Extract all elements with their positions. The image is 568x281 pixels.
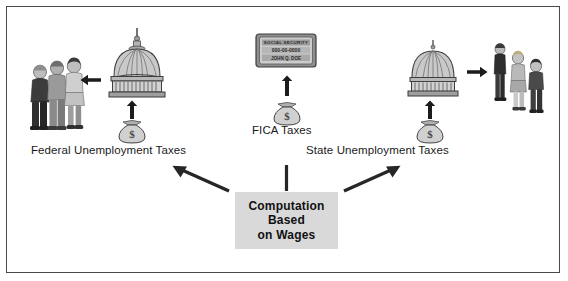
left-branch-label: Federal Unemployment Taxes bbox=[31, 144, 186, 156]
computation-line-3: on Wages bbox=[258, 228, 316, 243]
svg-text:$: $ bbox=[427, 128, 433, 140]
state-capitol-dome-icon bbox=[402, 38, 464, 98]
arrow-right-icon bbox=[466, 66, 488, 78]
svg-text:SOCIAL SECURITY: SOCIAL SECURITY bbox=[264, 40, 308, 45]
computation-line-1: Computation bbox=[248, 199, 324, 214]
svg-text:JOHN Q. DOE: JOHN Q. DOE bbox=[271, 56, 301, 61]
svg-text:$: $ bbox=[284, 110, 290, 122]
right-recipients-people-icon bbox=[488, 40, 550, 116]
capitol-dome-icon bbox=[101, 28, 173, 98]
right-money-bag-icon: $ bbox=[409, 117, 451, 143]
computation-line-2: Based bbox=[268, 213, 305, 228]
social-security-card-icon: SOCIAL SECURITY 000-00-0000 JOHN Q. DOE bbox=[254, 31, 318, 69]
center-branch-arrow-up-icon bbox=[281, 75, 293, 97]
diagram-canvas: $ Federal Unemployment Taxes SOCIAL SECU… bbox=[0, 0, 568, 281]
svg-text:$: $ bbox=[129, 128, 135, 140]
left-money-bag-icon: $ bbox=[111, 117, 153, 143]
arrow-left-icon bbox=[80, 74, 102, 86]
svg-text:000-00-0000: 000-00-0000 bbox=[272, 47, 301, 53]
center-money-bag-icon: $ bbox=[266, 99, 308, 125]
left-recipients-people-icon bbox=[26, 58, 88, 132]
center-branch-label: FICA Taxes bbox=[252, 124, 312, 136]
computation-box: Computation Based on Wages bbox=[235, 192, 338, 249]
right-branch-label: State Unemployment Taxes bbox=[306, 144, 449, 156]
